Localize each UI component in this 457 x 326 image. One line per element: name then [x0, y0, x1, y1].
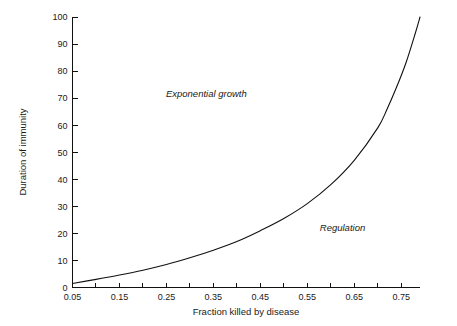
- y-axis-tick-labels: 0102030405060708090100: [52, 12, 67, 293]
- chart-plot-svg: 0102030405060708090100 0.050.150.250.350…: [0, 0, 457, 326]
- y-tick-label-20: 20: [57, 229, 67, 239]
- chart-figure: 0102030405060708090100 0.050.150.250.350…: [0, 0, 457, 326]
- x-tick-label-0.75: 0.75: [392, 292, 410, 302]
- annotation-exponential-growth: Exponential growth: [166, 88, 247, 99]
- y-tick-label-100: 100: [52, 12, 67, 22]
- annotation-regulation: Regulation: [320, 222, 365, 233]
- y-tick-label-30: 30: [57, 202, 67, 212]
- y-tick-label-90: 90: [57, 39, 67, 49]
- y-axis-tick-marks: [73, 17, 78, 288]
- y-tick-label-80: 80: [57, 66, 67, 76]
- x-axis-tick-labels: 0.050.150.250.350.450.550.650.75: [64, 292, 410, 302]
- x-tick-label-0.15: 0.15: [111, 292, 129, 302]
- x-axis-tick-marks: [73, 283, 402, 288]
- chart-region-annotations: Exponential growthRegulation: [166, 88, 365, 233]
- y-axis-title: Duration of immunity: [17, 108, 28, 195]
- x-tick-label-0.55: 0.55: [299, 292, 317, 302]
- y-tick-label-40: 40: [57, 175, 67, 185]
- x-tick-label-0.45: 0.45: [252, 292, 270, 302]
- x-tick-label-0.25: 0.25: [158, 292, 176, 302]
- y-tick-label-50: 50: [57, 148, 67, 158]
- y-tick-label-70: 70: [57, 93, 67, 103]
- y-tick-label-10: 10: [57, 256, 67, 266]
- y-tick-label-60: 60: [57, 121, 67, 131]
- x-tick-label-0.05: 0.05: [64, 292, 82, 302]
- x-tick-label-0.65: 0.65: [345, 292, 363, 302]
- x-axis-title: Fraction killed by disease: [193, 306, 300, 317]
- x-tick-label-0.35: 0.35: [205, 292, 223, 302]
- threshold-curve: [73, 17, 421, 283]
